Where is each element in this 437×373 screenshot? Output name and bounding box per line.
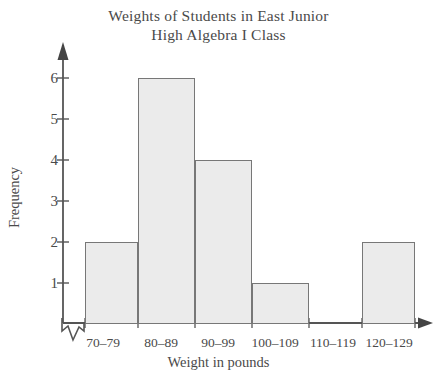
bar-120-129 bbox=[362, 242, 415, 324]
bar-80-89 bbox=[138, 78, 195, 324]
x-tick-label-90-99: 90–99 bbox=[190, 336, 246, 350]
x-tick-label-110-119: 110–119 bbox=[301, 336, 365, 350]
y-tick-label-1: 1 bbox=[36, 276, 58, 291]
y-tick-label-5: 5 bbox=[36, 112, 58, 127]
y-axis-label: Frequency bbox=[7, 138, 22, 258]
x-tick-label-120-129: 120–129 bbox=[357, 336, 421, 350]
y-tick-label-6: 6 bbox=[36, 71, 58, 86]
y-tick-label-2: 2 bbox=[36, 235, 58, 250]
y-tick-label-4: 4 bbox=[36, 153, 58, 168]
x-tick-label-100-109: 100–109 bbox=[243, 336, 307, 350]
histogram-figure: Weights of Students in East Junior High … bbox=[0, 0, 437, 373]
x-tick-label-70-79: 70–79 bbox=[75, 336, 131, 350]
bars-layer bbox=[0, 0, 437, 373]
bar-90-99 bbox=[195, 160, 252, 324]
x-tick-label-80-89: 80–89 bbox=[133, 336, 189, 350]
bar-70-79 bbox=[85, 242, 138, 324]
bar-100-109 bbox=[252, 283, 309, 324]
plot-area: 1 2 3 4 5 6 70–79 80–89 90–99 100–109 11… bbox=[0, 0, 437, 373]
x-axis-label: Weight in pounds bbox=[0, 354, 437, 370]
y-tick-label-3: 3 bbox=[36, 194, 58, 209]
